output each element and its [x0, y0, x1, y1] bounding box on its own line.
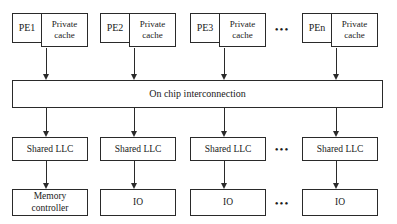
connector-pe2-to-interconnect: [134, 48, 135, 75]
private-cache-n: Privatecache: [331, 13, 378, 47]
connector-interconnect-to-llc2: [134, 108, 135, 133]
pe-row-ellipsis: •••: [268, 22, 296, 36]
on-chip-interconnection-bar: On chip interconnection: [12, 80, 383, 108]
pe-node-1: PE1 Privatecache: [12, 13, 88, 43]
connector-pe3-to-interconnect: [224, 48, 225, 75]
pe-node-2: PE2 Privatecache: [100, 13, 176, 43]
shared-llc-3: Shared LLC: [190, 137, 266, 161]
shared-llc-2: Shared LLC: [100, 137, 176, 161]
connector-pe1-to-interconnect: [46, 48, 47, 75]
connector-interconnect-to-llc3: [224, 108, 225, 133]
shared-llc-1: Shared LLC: [12, 137, 88, 161]
pe-node-n: PEn Privatecache: [302, 13, 378, 43]
connector-pen-to-interconnect: [336, 48, 337, 75]
connector-llc3-to-io: [224, 161, 225, 185]
pe-node-1-label: PE1: [13, 14, 41, 42]
memory-controller: Memorycontroller: [12, 189, 88, 216]
pe-node-3-label: PE3: [191, 14, 219, 42]
io-node-2: IO: [190, 189, 266, 216]
pe-node-n-label: PEn: [303, 14, 331, 42]
pe-node-3: PE3 Privatecache: [190, 13, 266, 43]
private-cache-2: Privatecache: [129, 13, 176, 47]
private-cache-1: Privatecache: [41, 13, 88, 47]
connector-llc2-to-io: [134, 161, 135, 185]
shared-llc-n: Shared LLC: [302, 137, 378, 161]
io-node-n: IO: [302, 189, 378, 216]
device-row-ellipsis: •••: [268, 196, 296, 210]
private-cache-3: Privatecache: [219, 13, 266, 47]
connector-llc1-to-memory-controller: [46, 161, 47, 185]
io-node-1: IO: [100, 189, 176, 216]
llc-row-ellipsis: •••: [268, 142, 296, 156]
connector-interconnect-to-llc1: [46, 108, 47, 133]
connector-interconnect-to-llcn: [336, 108, 337, 133]
diagram-canvas: PE1 Privatecache PE2 Privatecache PE3 Pr…: [0, 0, 397, 224]
connector-llcn-to-io: [336, 161, 337, 185]
pe-node-2-label: PE2: [101, 14, 129, 42]
